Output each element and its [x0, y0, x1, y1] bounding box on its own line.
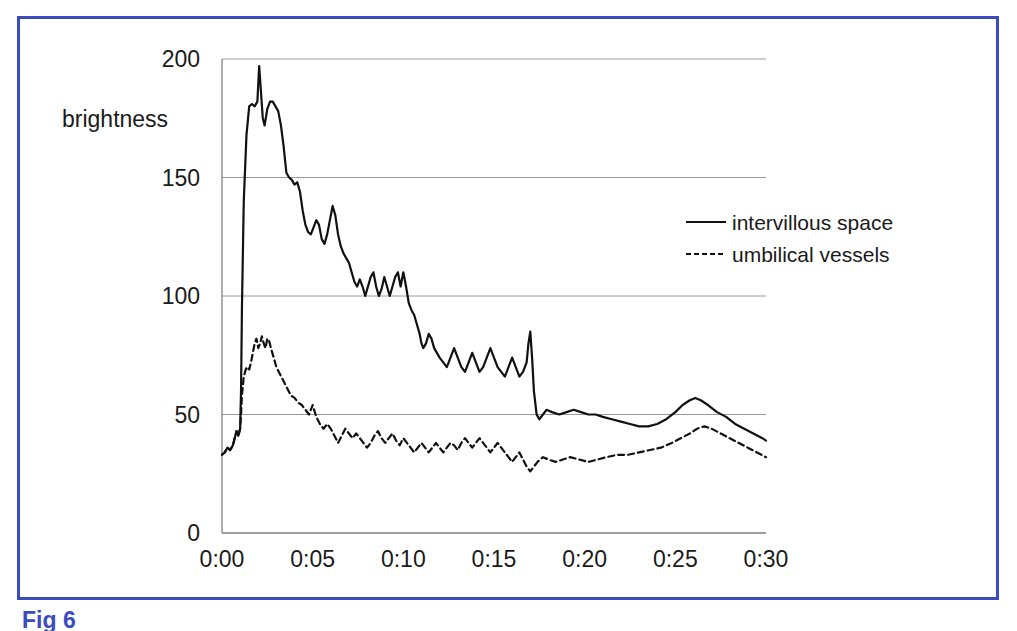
y-tick-label: 200 [162, 46, 200, 72]
gridlines [222, 59, 766, 533]
data-series [222, 66, 766, 471]
figure-caption: Fig 6 [22, 607, 76, 631]
series-line-intervillous-space [222, 66, 766, 455]
x-axis-tick-labels: 0:000:050:100:150:200:250:30 [200, 546, 789, 572]
legend-label: intervillous space [732, 211, 893, 234]
x-tick-label: 0:10 [381, 546, 426, 572]
brightness-time-chart: 050100150200 0:000:050:100:150:200:250:3… [0, 0, 1017, 631]
legend-label: umbilical vessels [732, 243, 890, 266]
x-tick-label: 0:00 [200, 546, 245, 572]
x-tick-label: 0:05 [290, 546, 335, 572]
figure-root: 050100150200 0:000:050:100:150:200:250:3… [0, 0, 1017, 631]
y-tick-label: 0 [187, 520, 200, 546]
x-tick-label: 0:25 [653, 546, 698, 572]
x-tick-label: 0:15 [472, 546, 517, 572]
y-tick-label: 50 [174, 402, 200, 428]
chart-legend: intervillous spaceumbilical vessels [686, 211, 893, 266]
x-tick-label: 0:20 [562, 546, 607, 572]
y-tick-label: 100 [162, 283, 200, 309]
y-tick-label: 150 [162, 165, 200, 191]
x-tick-label: 0:30 [744, 546, 789, 572]
y-axis-title: brightness [62, 106, 168, 132]
